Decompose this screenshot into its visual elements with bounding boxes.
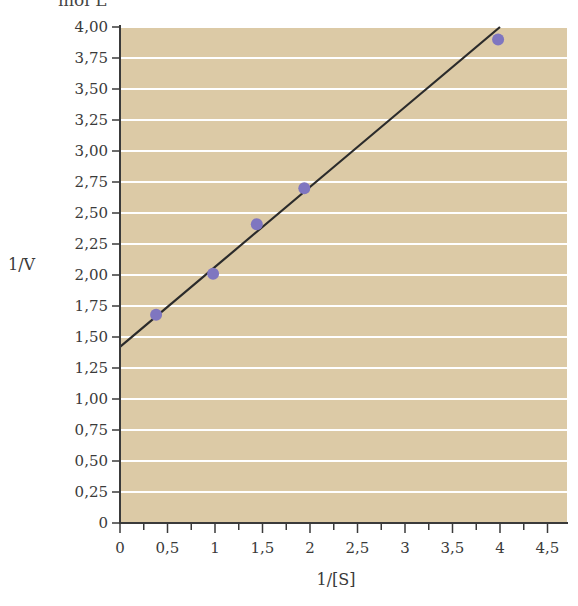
- y-axis-title: 1/V: [8, 255, 36, 274]
- y-tick-label: 2,50: [75, 204, 108, 222]
- y-tick-label: 0,25: [75, 483, 108, 501]
- x-tick-label: 4,5: [536, 539, 560, 557]
- y-tick-label: 1,50: [75, 328, 108, 346]
- x-axis-title: 1/[S]: [316, 570, 355, 589]
- y-tick-label: 1,75: [75, 297, 108, 315]
- x-tick-label: 2: [305, 539, 315, 557]
- y-tick-label: 3,50: [75, 80, 108, 98]
- data-point: [150, 309, 162, 321]
- data-point: [298, 182, 310, 194]
- y-tick-label: 3,25: [75, 111, 108, 129]
- x-tick-label: 1: [210, 539, 220, 557]
- y-tick-label: 2,00: [75, 266, 108, 284]
- y-tick-label: 2,25: [75, 235, 108, 253]
- x-tick-label: 4: [495, 539, 505, 557]
- y-tick-label: 3,00: [75, 142, 108, 160]
- y-axis-ticks: 00,250,500,751,001,251,501,752,002,252,5…: [75, 18, 120, 532]
- x-tick-label: 0,5: [156, 539, 180, 557]
- x-axis-ticks: 00,511,522,533,544,5: [115, 523, 559, 557]
- y-tick-label: 1,00: [75, 390, 108, 408]
- lineweaver-burk-chart: 00,250,500,751,001,251,501,752,002,252,5…: [0, 0, 578, 606]
- y-tick-label: 0: [98, 514, 108, 532]
- y-tick-label: 0,75: [75, 421, 108, 439]
- data-point: [251, 218, 263, 230]
- y-tick-label: 2,75: [75, 173, 108, 191]
- data-point: [207, 268, 219, 280]
- data-point: [492, 33, 504, 45]
- y-tick-label: 4,00: [75, 18, 108, 36]
- x-tick-label: 0: [115, 539, 125, 557]
- x-tick-label: 3: [400, 539, 410, 557]
- x-tick-label: 1,5: [251, 539, 275, 557]
- x-tick-label: 3,5: [441, 539, 465, 557]
- y-tick-label: 0,50: [75, 452, 108, 470]
- y-tick-label: 1,25: [75, 359, 108, 377]
- x-tick-label: 2,5: [346, 539, 370, 557]
- y-tick-label: 3,75: [75, 49, 108, 67]
